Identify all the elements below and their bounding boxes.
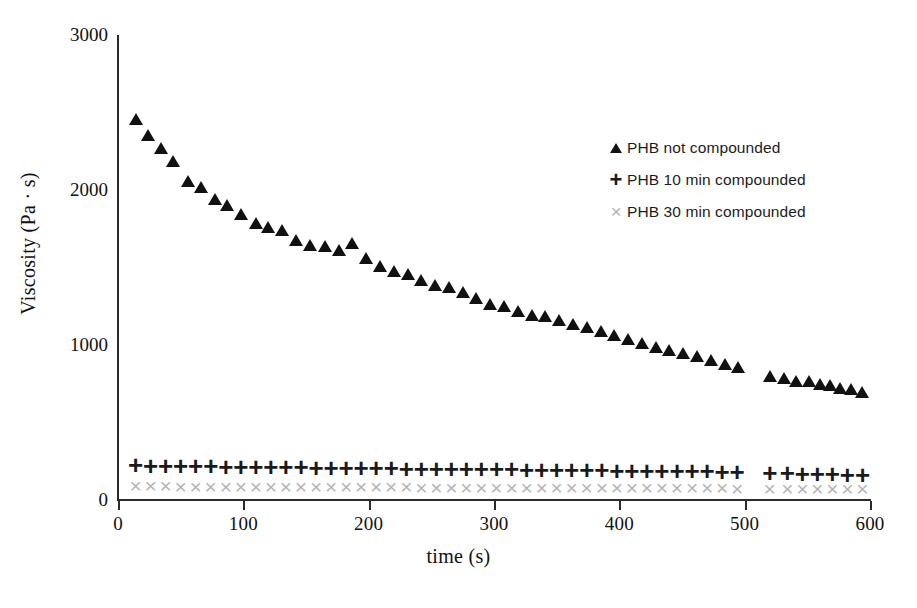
data-point-cross: × — [656, 477, 668, 498]
data-point-cross: × — [340, 476, 352, 497]
data-point-cross: × — [280, 476, 292, 497]
y-tick-label: 0 — [99, 488, 109, 512]
data-point-cross: × — [370, 476, 382, 497]
x-tick-label: 200 — [354, 512, 383, 536]
data-point-cross: × — [385, 476, 397, 497]
x-tick-mark — [870, 501, 872, 510]
data-point-cross: × — [731, 477, 743, 498]
data-point-cross: × — [220, 475, 232, 496]
legend-label: PHB 30 min compounded — [627, 203, 806, 221]
data-point-cross: × — [445, 476, 457, 497]
x-tick-mark — [118, 501, 120, 510]
x-tick-label: 100 — [229, 512, 258, 536]
x-tick-label: 400 — [605, 512, 634, 536]
legend-label: PHB 10 min compounded — [627, 171, 806, 189]
x-tick-label: 0 — [113, 512, 123, 536]
data-point-cross: × — [811, 478, 823, 499]
data-point-cross: × — [295, 476, 307, 497]
plot-area: ++++++++++++++++++++++++++++++++++++++++… — [118, 35, 870, 500]
y-tick-label: 2000 — [70, 178, 108, 202]
data-point-cross: × — [475, 476, 487, 497]
x-tick-mark — [494, 501, 496, 510]
data-point-cross: × — [566, 476, 578, 497]
x-tick-mark — [369, 501, 371, 510]
data-point-cross: × — [235, 475, 247, 496]
legend-cross-icon: × — [605, 201, 627, 223]
data-point-cross: × — [310, 476, 322, 497]
x-tick-label: 300 — [479, 512, 508, 536]
x-tick-mark — [745, 501, 747, 510]
data-point-cross: × — [460, 476, 472, 497]
y-tick-label: 1000 — [70, 333, 108, 357]
data-point-cross: × — [611, 477, 623, 498]
data-point-cross: × — [796, 478, 808, 499]
x-tick-mark — [243, 501, 245, 510]
legend-item-3[interactable]: ×PHB 30 min compounded — [605, 198, 885, 226]
data-point-cross: × — [596, 477, 608, 498]
data-point-cross: × — [505, 476, 517, 497]
data-point-cross: × — [716, 477, 728, 498]
data-point-cross: × — [856, 478, 868, 499]
x-tick-mark — [619, 501, 621, 510]
legend-plus-icon: + — [605, 167, 627, 193]
data-point-cross: × — [641, 477, 653, 498]
data-point-cross: × — [190, 475, 202, 496]
data-point-cross: × — [430, 476, 442, 497]
data-point-cross: × — [520, 476, 532, 497]
x-tick-label: 500 — [730, 512, 759, 536]
data-point-cross: × — [701, 477, 713, 498]
data-point-cross: × — [781, 478, 793, 499]
data-point-cross: × — [415, 476, 427, 497]
data-point-cross: × — [764, 477, 776, 498]
data-point-cross: × — [671, 477, 683, 498]
data-point-cross: × — [159, 475, 171, 496]
data-point-cross: × — [400, 476, 412, 497]
data-point-cross: × — [535, 476, 547, 497]
data-point-cross: × — [250, 475, 262, 496]
legend-item-1[interactable]: PHB not compounded — [605, 134, 885, 162]
data-point-cross: × — [826, 478, 838, 499]
y-tick-label: 3000 — [70, 23, 108, 47]
data-point-cross: × — [205, 475, 217, 496]
data-point-cross: × — [581, 476, 593, 497]
data-point-cross: × — [129, 475, 141, 496]
data-point-cross: × — [490, 476, 502, 497]
data-point-cross: × — [841, 478, 853, 499]
legend-label: PHB not compounded — [627, 139, 780, 157]
data-point-cross: × — [325, 476, 337, 497]
chart-legend: PHB not compounded+PHB 10 min compounded… — [605, 134, 885, 230]
x-axis-title: time (s) — [0, 545, 917, 568]
data-point-cross: × — [626, 477, 638, 498]
data-series-3: ××××××××××××××××××××××××××××××××××××××××… — [118, 35, 870, 500]
data-point-cross: × — [686, 477, 698, 498]
data-point-cross: × — [175, 475, 187, 496]
y-axis-title: Viscosity (Pa · s) — [17, 94, 40, 394]
data-point-cross: × — [355, 476, 367, 497]
legend-item-2[interactable]: +PHB 10 min compounded — [605, 166, 885, 194]
x-tick-label: 600 — [855, 512, 884, 536]
data-point-cross: × — [551, 476, 563, 497]
legend-triangle-icon — [605, 143, 627, 153]
data-point-cross: × — [144, 475, 156, 496]
viscosity-vs-time-chart: 3000200010000 0100200300400500600 ++++++… — [0, 0, 917, 608]
data-point-cross: × — [265, 475, 277, 496]
